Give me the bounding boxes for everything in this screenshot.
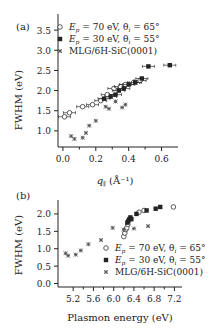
data-point-shape [66, 254, 70, 258]
data-point [67, 110, 72, 115]
data-point [113, 92, 117, 96]
legend-marker-shape [58, 25, 63, 30]
y-tick-label: 1.5 [37, 227, 52, 237]
x-tick-label: 0.0 [56, 154, 71, 164]
panel-label-b: (b) [16, 190, 30, 201]
y-ticks-a: 1.01.52.02.53.03.5 [37, 26, 58, 137]
data-point-shape [146, 224, 150, 228]
y-tick-label: 2.0 [37, 209, 52, 219]
data-point [99, 238, 103, 242]
data-point [134, 212, 138, 216]
x-axis-label-a: q∥ (Å⁻¹) [97, 175, 134, 187]
legend-label: Ep = 30 eV, θi = 55° [68, 34, 160, 46]
x-axis-label-b: Plasmon energy (eV) [67, 312, 172, 323]
legend-marker [58, 37, 62, 41]
data-point-shape [107, 107, 111, 111]
data-point [144, 208, 148, 212]
data-point-shape [111, 226, 115, 230]
chart-figure: (a) 1.01.52.02.53.03.5 0.00.20.40.6 FWHM… [0, 0, 217, 335]
data-point [66, 254, 70, 258]
data-point-shape [133, 80, 137, 84]
data-point-shape [67, 110, 72, 115]
data-point [86, 242, 90, 246]
data-point-shape [108, 94, 112, 98]
legend-marker [104, 246, 109, 251]
y-tick-label: 3.0 [37, 46, 52, 56]
x-tick-label: 5.6 [86, 294, 101, 304]
y-axis-label-b: FWHM (eV) [13, 215, 24, 275]
panel-b: (b) 0.00.51.01.52.0 5.25.66.06.46.87.2 F… [13, 190, 206, 323]
data-point-shape [114, 100, 118, 104]
data-point-shape [126, 82, 130, 86]
data-point-shape [102, 96, 106, 100]
x-ticks-b: 5.25.66.06.46.87.2 [66, 287, 182, 304]
legend-marker-shape [104, 246, 109, 251]
x-tick-label: 5.2 [66, 294, 80, 304]
legend-marker-shape [58, 37, 62, 41]
x-tick-label: 0.4 [122, 154, 137, 164]
x-axis-label-a-unit: (Å⁻¹) [106, 175, 134, 186]
data-point [104, 105, 108, 109]
data-point [87, 124, 91, 128]
y-tick-label: 2.0 [37, 86, 52, 96]
x-ticks-a: 0.00.20.40.6 [56, 147, 169, 164]
data-point [126, 82, 130, 86]
legend-angle: = 65° [130, 22, 159, 32]
legend-angle: = 55° [176, 255, 205, 265]
data-point [111, 226, 115, 230]
data-point-shape [104, 105, 108, 109]
data-point-shape [117, 88, 121, 92]
data-point-shape [146, 64, 150, 68]
data-point-shape [90, 102, 95, 107]
x-tick-label: 6.0 [107, 294, 122, 304]
legend-energy: = 70 eV, θ [79, 22, 128, 32]
legend-energy: = 30 eV, θ [125, 255, 174, 265]
y-tick-label: 2.5 [37, 66, 52, 76]
legend-b: Ep = 70 eV, θi = 65°Ep = 30 eV, θi = 55°… [104, 243, 206, 277]
data-point [168, 63, 172, 67]
data-point-shape [81, 136, 85, 140]
x-tick-label: 7.2 [167, 294, 181, 304]
x-tick-label: 6.8 [147, 294, 162, 304]
legend-marker [58, 25, 63, 30]
data-point [107, 107, 111, 111]
data-point [129, 217, 133, 221]
data-point-shape [122, 228, 126, 232]
data-point-shape [113, 92, 117, 96]
data-point-shape [123, 103, 127, 107]
y-axis-label-a: FWHM (eV) [13, 70, 24, 130]
data-point [84, 131, 88, 135]
data-points-a [59, 63, 176, 141]
data-point [122, 228, 126, 232]
legend-angle: = 65° [176, 243, 205, 253]
data-point [79, 249, 83, 253]
data-point-shape [80, 104, 85, 109]
panel-a: (a) 1.01.52.02.53.03.5 0.00.20.40.6 FWHM… [13, 14, 178, 187]
legend-label: Ep = 70 eV, θi = 65° [68, 22, 160, 34]
data-point-shape [129, 217, 133, 221]
data-point [132, 227, 136, 231]
data-point [122, 86, 126, 90]
y-ticks-b: 0.00.51.01.52.0 [37, 209, 58, 289]
legend-marker-shape [58, 49, 62, 53]
data-point [117, 88, 121, 92]
legend-marker-shape [104, 258, 108, 262]
panel-label-a: (a) [16, 21, 30, 32]
legend-label: Ep = 70 eV, θi = 65° [114, 243, 206, 255]
data-point [146, 64, 150, 68]
legend-marker [104, 270, 108, 274]
data-point [74, 253, 78, 257]
data-point-shape [74, 253, 78, 257]
legend-marker [104, 258, 108, 262]
data-point [171, 205, 176, 210]
data-point [158, 205, 162, 209]
legend-a: Ep = 70 eV, θi = 65°Ep = 30 eV, θi = 55°… [58, 22, 160, 56]
data-point [73, 137, 77, 141]
legend-marker [58, 49, 62, 53]
data-point [146, 224, 150, 228]
data-point [80, 104, 85, 109]
data-point [114, 100, 118, 104]
data-point [153, 207, 157, 211]
y-tick-label: 3.5 [37, 26, 52, 36]
legend-angle: = 55° [130, 34, 159, 44]
